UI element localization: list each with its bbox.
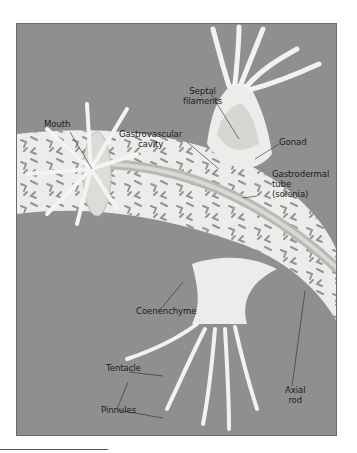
label-septal-filaments: Septal filaments: [183, 86, 222, 106]
octocoral-illustration: [17, 24, 337, 436]
label-gastrodermal-tube: Gastrodermal tube (solenia): [272, 169, 329, 199]
footnote-rule: [0, 449, 108, 450]
label-gonad: Gonad: [279, 137, 307, 147]
diagram-frame: Septal filaments Mouth Gastrovascular ca…: [16, 23, 337, 436]
label-axial-rod: Axial rod: [285, 385, 306, 405]
label-pinnules: Pinnules: [101, 405, 136, 415]
label-mouth: Mouth: [44, 119, 70, 129]
label-tentacle: Tentacle: [106, 363, 141, 373]
label-gastrovascular-cavity: Gastrovascular cavity: [119, 129, 182, 149]
label-coenenchyme: Coenenchyme: [136, 306, 197, 316]
